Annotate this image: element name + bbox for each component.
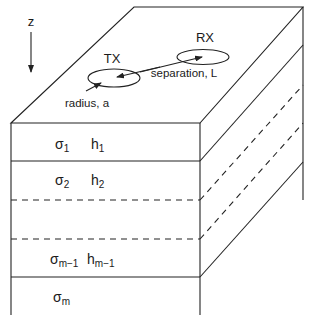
z-axis: z [28, 14, 35, 72]
svg-text:σm: σm [53, 289, 70, 307]
h-symbol: h [91, 172, 99, 188]
side-face [200, 7, 303, 277]
h-symbol: h [91, 136, 99, 152]
svg-text:h2: h2 [91, 172, 105, 190]
receiver-loop: RX [177, 30, 229, 65]
layered-earth-diagram: z TX RX radius, a separation, L σ1 h1 [0, 0, 313, 325]
tx-label: TX [104, 51, 121, 66]
layer-1-labels: σ1 h1 [55, 136, 105, 154]
sigma-symbol: σ [53, 289, 62, 305]
separation-label: separation, L [151, 67, 218, 79]
h-subscript: m−1 [95, 258, 115, 269]
radius-label: radius, a [65, 97, 110, 109]
svg-text:σ2: σ2 [55, 172, 70, 190]
h-subscript: 1 [99, 143, 105, 154]
tx-loop-icon [88, 69, 140, 87]
z-axis-label: z [28, 14, 35, 29]
sigma-symbol: σ [55, 172, 64, 188]
transmitter-loop: TX [88, 51, 140, 87]
layer-2-labels: σ2 h2 [55, 172, 105, 190]
layer-m-1-labels: σm−1 hm−1 [50, 251, 115, 269]
top-surface [11, 7, 303, 123]
sigma-subscript: 1 [64, 143, 70, 154]
radius-arrow-icon [86, 83, 101, 91]
rx-label: RX [196, 30, 214, 45]
sigma-subscript: 2 [64, 179, 70, 190]
front-face [11, 123, 200, 315]
sigma-subscript: m [62, 296, 70, 307]
svg-text:h1: h1 [91, 136, 105, 154]
h-subscript: 2 [99, 179, 105, 190]
sigma-symbol: σ [50, 251, 59, 267]
h-symbol: h [87, 251, 95, 267]
svg-text:σm−1: σm−1 [50, 251, 79, 269]
layer-m-labels: σm [53, 289, 70, 307]
sigma-subscript: m−1 [59, 258, 79, 269]
svg-text:hm−1: hm−1 [87, 251, 115, 269]
svg-text:σ1: σ1 [55, 136, 70, 154]
rx-loop-icon [177, 50, 229, 65]
sigma-symbol: σ [55, 136, 64, 152]
